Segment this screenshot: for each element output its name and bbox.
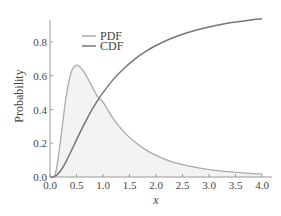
x-tick-label: 2.5 bbox=[176, 179, 190, 191]
x-tick-label: 3.5 bbox=[229, 179, 243, 191]
y-tick-label: 0.8 bbox=[33, 36, 47, 48]
legend: PDF CDF bbox=[82, 29, 124, 53]
y-tick-label: 0.0 bbox=[33, 171, 47, 183]
x-axis-title: x bbox=[152, 193, 159, 207]
x-tick-label: 3.0 bbox=[202, 179, 216, 191]
y-tick-label: 0.6 bbox=[33, 70, 47, 82]
y-axis-title: Probability bbox=[12, 69, 26, 122]
y-tick-label: 0.2 bbox=[33, 137, 47, 149]
pdf-area-fill bbox=[50, 65, 262, 178]
x-tick-label: 0.5 bbox=[70, 179, 84, 191]
x-tick-label: 4.0 bbox=[255, 179, 269, 191]
legend-cdf-label: CDF bbox=[100, 39, 124, 53]
x-tick-label: 1.0 bbox=[96, 179, 110, 191]
y-tick-label: 0.4 bbox=[33, 104, 47, 116]
x-tick-label: 2.0 bbox=[149, 179, 163, 191]
plot-area bbox=[50, 19, 262, 178]
x-tick-label: 1.5 bbox=[123, 179, 137, 191]
chart: 0.00.51.01.52.02.53.03.54.0 0.00.20.40.6… bbox=[0, 0, 281, 216]
